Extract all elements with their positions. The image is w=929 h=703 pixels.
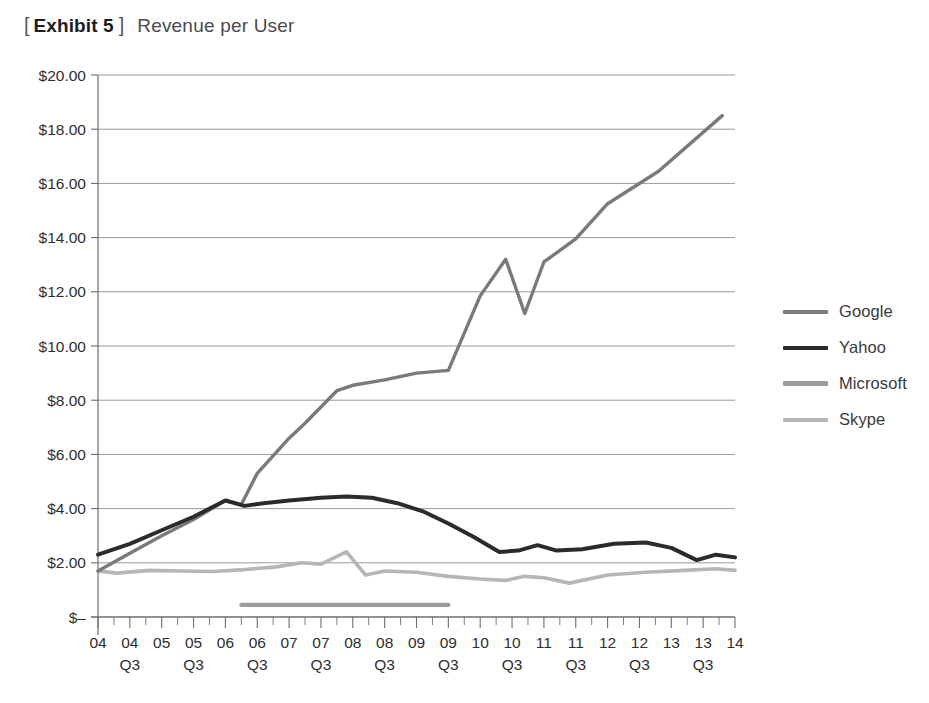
series-line-google <box>98 116 722 571</box>
x-axis-label-year: 09 <box>408 634 425 651</box>
x-axis-label-quarter: Q3 <box>120 656 141 673</box>
legend-label: Google <box>839 302 893 321</box>
y-axis-label: $10.00 <box>39 338 87 355</box>
legend-swatch-skype <box>783 418 828 422</box>
x-axis-label-year: 11 <box>536 634 552 651</box>
x-axis-label-year: 13 <box>663 634 680 651</box>
x-axis-label-year: 07 <box>312 634 329 651</box>
x-axis-label-year: 10 <box>472 634 490 651</box>
x-axis-label-quarter: Q3 <box>247 656 268 673</box>
x-axis-label-quarter: Q3 <box>374 656 395 673</box>
x-axis-label-year: 04 <box>89 634 107 651</box>
y-axis-label: $20.00 <box>39 67 87 84</box>
x-axis-label-quarter: Q3 <box>183 656 204 673</box>
y-axis-label: $– <box>69 609 87 626</box>
x-axis-label-quarter: Q3 <box>565 656 586 673</box>
y-axis-label: $8.00 <box>47 392 86 409</box>
legend-item-microsoft[interactable]: Microsoft <box>783 374 907 393</box>
y-axis-label: $14.00 <box>39 229 87 246</box>
x-axis-label-year: 04 <box>121 634 139 651</box>
y-axis-label: $6.00 <box>47 446 86 463</box>
x-axis-label-quarter: Q3 <box>502 656 523 673</box>
legend-label: Microsoft <box>839 374 907 393</box>
x-axis-label-quarter: Q3 <box>629 656 650 673</box>
x-axis-label-year: 08 <box>376 634 393 651</box>
legend-swatch-google <box>783 310 828 314</box>
y-axis-label: $12.00 <box>39 283 87 300</box>
y-axis-label: $2.00 <box>47 554 86 571</box>
x-axis-label-year: 05 <box>153 634 170 651</box>
legend-label: Skype <box>839 410 885 429</box>
x-axis-label-year: 10 <box>503 634 521 651</box>
x-axis-label-quarter: Q3 <box>438 656 459 673</box>
legend-swatch-microsoft <box>783 381 828 386</box>
x-axis-label-year: 14 <box>726 634 744 651</box>
y-axis-label: $4.00 <box>47 500 86 517</box>
x-axis-label-year: 11 <box>568 634 584 651</box>
y-axis-label: $18.00 <box>39 121 87 138</box>
legend-item-yahoo[interactable]: Yahoo <box>783 338 907 357</box>
x-axis-label-year: 07 <box>280 634 297 651</box>
legend-item-google[interactable]: Google <box>783 302 907 321</box>
x-axis-label-year: 08 <box>344 634 361 651</box>
x-axis-label-year: 09 <box>440 634 457 651</box>
x-axis-label-quarter: Q3 <box>693 656 714 673</box>
x-axis-label-year: 05 <box>185 634 202 651</box>
x-axis-label-year: 12 <box>631 634 648 651</box>
legend-label: Yahoo <box>839 338 886 357</box>
x-axis-label-year: 12 <box>599 634 616 651</box>
series-line-skype <box>98 552 735 583</box>
chart-legend: GoogleYahooMicrosoftSkype <box>783 302 907 429</box>
x-axis-label-year: 06 <box>249 634 266 651</box>
x-axis-label-quarter: Q3 <box>311 656 332 673</box>
x-axis-label-year: 13 <box>695 634 712 651</box>
legend-swatch-yahoo <box>783 346 828 350</box>
y-axis-label: $16.00 <box>39 175 87 192</box>
legend-item-skype[interactable]: Skype <box>783 410 907 429</box>
series-line-yahoo <box>98 496 735 560</box>
x-axis-label-year: 06 <box>217 634 234 651</box>
